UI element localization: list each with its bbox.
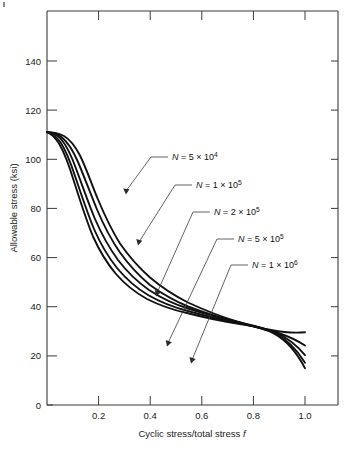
x-axis-ticks <box>99 11 305 405</box>
series-label-body: = 2 × 10 <box>221 207 257 217</box>
x-axis-title-text: Cyclic stress/total stress <box>138 428 243 439</box>
series-label-exponent: 5 <box>256 206 260 213</box>
arrowhead-n-1e5 <box>136 239 142 246</box>
y-tick-label: 80 <box>30 203 41 214</box>
series-label-n-1e6: N = 1 × 106 <box>252 259 298 271</box>
x-tick-label: 0.8 <box>247 410 260 421</box>
series-label-n-5e5: N = 5 × 105 <box>238 233 284 245</box>
y-tick-label: 120 <box>25 105 41 116</box>
leader-n-1e5 <box>139 185 192 242</box>
leader-n-2e5 <box>157 212 210 293</box>
y-tick-label: 60 <box>30 252 41 263</box>
y-tick-label: 20 <box>30 350 41 361</box>
corner-artifact-mark <box>3 2 5 7</box>
curve-n-5e4 <box>47 132 305 333</box>
series-label-n-1e5: N = 1 × 105 <box>196 179 242 191</box>
x-axis-title: Cyclic stress/total stress f <box>138 428 247 439</box>
series-label-body: = 1 × 10 <box>203 180 239 190</box>
y-tick-label: 100 <box>25 154 41 165</box>
y-tick-label: 40 <box>30 301 41 312</box>
series-label-n-2e5: N = 2 × 105 <box>214 206 260 218</box>
series-label-exponent: 5 <box>238 179 242 186</box>
series-label-body: = 5 × 10 <box>245 234 281 244</box>
x-tick-labels: 0.2 0.4 0.6 0.8 1.0 <box>92 410 312 421</box>
x-tick-label: 1.0 <box>298 410 311 421</box>
x-tick-label: 0.4 <box>144 410 157 421</box>
y-tick-labels: 0 20 40 60 80 100 120 140 <box>25 56 41 411</box>
leader-n-5e5 <box>168 239 234 343</box>
series-label-exponent: 5 <box>280 233 284 240</box>
chart-svg: 0 20 40 60 80 100 120 140 0.2 0.4 0.6 0.… <box>0 0 354 455</box>
y-tick-label: 140 <box>25 56 41 67</box>
series-label-exponent: 6 <box>294 259 298 266</box>
leader-n-5e4 <box>126 157 168 191</box>
y-axis-title: Allowable stress (ksi) <box>8 163 19 252</box>
series-labels: N = 5 × 104 N = 1 × 105 N = 2 × 105 N = … <box>172 151 298 271</box>
figure-container: 0 20 40 60 80 100 120 140 0.2 0.4 0.6 0.… <box>0 0 354 455</box>
series-label-exponent: 4 <box>214 151 218 158</box>
arrowhead-n-5e4 <box>123 188 129 194</box>
series-label-body: = 5 × 10 <box>179 152 215 162</box>
x-axis-title-symbol: f <box>243 428 247 439</box>
x-tick-label: 0.6 <box>195 410 208 421</box>
y-tick-label: 0 <box>36 400 41 411</box>
series-label-body: = 1 × 10 <box>259 260 295 270</box>
x-tick-label: 0.2 <box>92 410 105 421</box>
series-label-n-5e4: N = 5 × 104 <box>172 151 218 163</box>
